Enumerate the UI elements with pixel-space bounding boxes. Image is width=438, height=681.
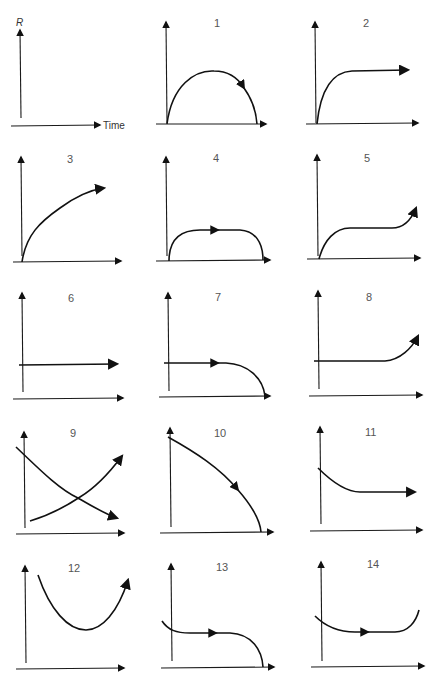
y-axis <box>315 22 316 123</box>
panel-label: 14 <box>367 558 379 570</box>
panel-label: 7 <box>215 291 221 303</box>
y-axis <box>22 293 23 392</box>
panel-3: 3 <box>13 153 121 262</box>
x-axis <box>161 667 274 668</box>
y-axis <box>166 157 167 256</box>
y-axis <box>171 564 172 661</box>
x-axis <box>310 530 422 531</box>
panel-5: 5 <box>307 152 420 259</box>
decreasing-curve <box>16 447 117 518</box>
figure-canvas: R Time 1 2 3 4 5 <box>0 0 438 681</box>
curve <box>19 364 117 365</box>
y-axis <box>24 432 25 528</box>
curve <box>162 621 216 633</box>
increasing-curve <box>30 456 122 521</box>
x-axis-label: Time <box>103 120 125 131</box>
x-axis <box>307 258 420 259</box>
curve <box>317 70 408 124</box>
y-axis <box>170 428 171 527</box>
panel-label: 10 <box>214 427 226 439</box>
x-axis <box>309 395 422 396</box>
panel-label: 13 <box>216 561 228 573</box>
y-axis <box>166 22 167 123</box>
y-axis <box>320 427 321 524</box>
panel-label: 3 <box>67 153 73 165</box>
y-axis <box>317 155 318 256</box>
y-axis <box>168 293 169 391</box>
curve-tail <box>218 363 265 396</box>
panel-label: 1 <box>214 17 220 29</box>
panel-11: 11 <box>310 426 422 531</box>
y-axis <box>25 566 26 663</box>
x-axis <box>311 666 424 667</box>
panel-label: 12 <box>68 562 80 574</box>
curve-tail <box>218 230 263 260</box>
panel-0-legend-axes: R Time <box>11 17 125 131</box>
panel-7: 7 <box>159 291 270 397</box>
panel-label: 6 <box>68 292 74 304</box>
x-axis <box>306 123 418 124</box>
y-axis <box>321 562 322 661</box>
x-axis <box>13 261 121 262</box>
curve-tail <box>368 610 419 632</box>
panel-2: 2 <box>306 17 418 124</box>
x-axis <box>11 125 100 126</box>
curve <box>318 468 415 492</box>
curve <box>314 336 418 361</box>
y-axis <box>20 30 21 118</box>
panel-label: 9 <box>70 427 76 439</box>
x-axis <box>13 398 123 399</box>
panel-label: 4 <box>213 152 219 164</box>
curve <box>319 208 416 259</box>
panel-label: 11 <box>365 426 376 438</box>
y-axis <box>21 157 22 256</box>
curve-tail <box>216 633 263 667</box>
panel-8: 8 <box>309 291 422 396</box>
x-axis <box>16 533 124 534</box>
panel-label: 2 <box>363 17 369 29</box>
panel-13: 13 <box>161 561 274 668</box>
curve <box>168 437 238 490</box>
panel-12: 12 <box>16 562 128 669</box>
panel-9: 9 <box>16 427 124 534</box>
curve <box>315 616 368 632</box>
x-axis <box>16 668 124 669</box>
x-axis <box>159 396 270 397</box>
curve <box>167 71 244 124</box>
panel-label: 5 <box>364 152 370 164</box>
panel-14: 14 <box>311 558 424 667</box>
curve <box>169 230 218 261</box>
panel-10: 10 <box>160 427 273 533</box>
x-axis <box>160 532 273 533</box>
panel-1: 1 <box>156 17 266 124</box>
curve-tail <box>244 88 257 124</box>
panel-6: 6 <box>13 292 123 399</box>
curve <box>22 188 104 262</box>
y-axis <box>318 291 319 389</box>
panel-label: 8 <box>366 291 372 303</box>
panel-4: 4 <box>156 152 270 261</box>
curve-tail <box>238 490 261 532</box>
y-axis-label: R <box>16 17 23 28</box>
curve <box>38 575 128 630</box>
x-axis <box>156 260 270 261</box>
